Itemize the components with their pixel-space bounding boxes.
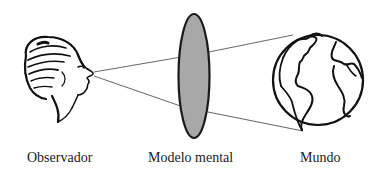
world-globe-icon xyxy=(273,33,363,130)
observer-head-icon xyxy=(25,37,93,122)
observer-label: Observador xyxy=(27,150,92,166)
mental-model-lens-icon xyxy=(179,14,210,138)
world-label: Mundo xyxy=(300,150,340,166)
mental-model-label: Modelo mental xyxy=(148,150,233,166)
